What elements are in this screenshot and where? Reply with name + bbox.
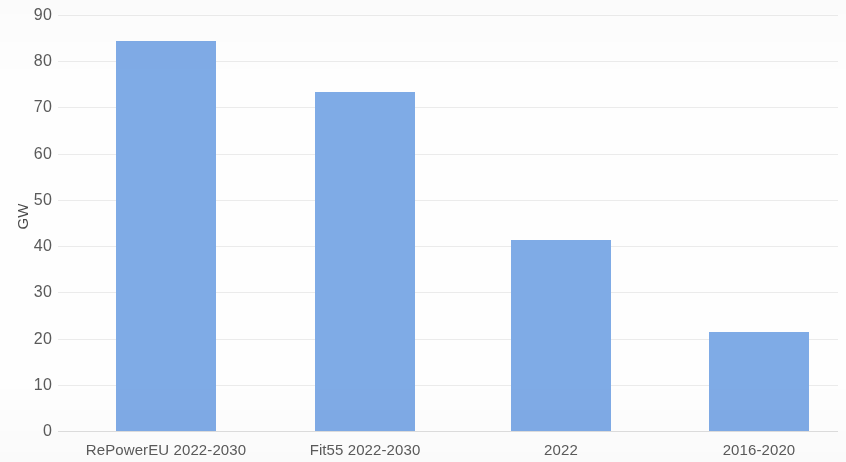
bar [709,332,809,431]
y-axis-tick-60: 60 [6,146,52,162]
x-axis-tick-label: RePowerEU 2022-2030 [86,441,246,458]
x-axis-tick-label: 2016-2020 [723,441,796,458]
gridline-90 [58,15,838,16]
y-axis-tick-90: 90 [6,7,52,23]
x-axis-tick-labels: RePowerEU 2022-2030Fit55 2022-2030202220… [0,441,846,462]
gridline-0 [58,431,838,432]
y-axis-tick-50: 50 [6,192,52,208]
bar [511,240,611,431]
x-axis-tick-label: Fit55 2022-2030 [310,441,421,458]
y-axis-tick-labels: 0102030405060708090 [0,0,52,462]
plot-area [58,0,838,462]
y-axis-tick-70: 70 [6,99,52,115]
bar-chart: GW 0102030405060708090 RePowerEU 2022-20… [0,0,846,462]
x-axis-tick-label: 2022 [544,441,578,458]
y-axis-tick-0: 0 [6,423,52,439]
bar [116,41,216,431]
y-axis-tick-40: 40 [6,238,52,254]
bar [315,92,415,431]
y-axis-tick-20: 20 [6,331,52,347]
y-axis-tick-10: 10 [6,377,52,393]
y-axis-tick-30: 30 [6,284,52,300]
y-axis-tick-80: 80 [6,53,52,69]
